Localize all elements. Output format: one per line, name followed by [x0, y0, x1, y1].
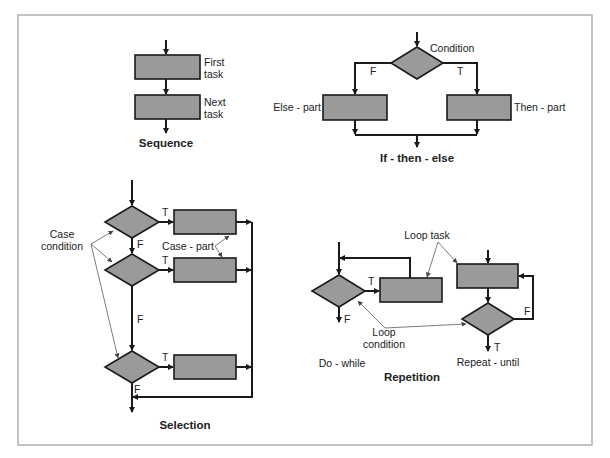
condition-label: Condition: [430, 42, 475, 54]
repeat-until-false-label: F: [524, 305, 530, 317]
do-while-label: Do - while: [319, 357, 366, 369]
first-task-label-2: task: [204, 68, 224, 80]
case-diamond-3: [105, 351, 159, 383]
then-part-box: [447, 95, 511, 120]
else-part-box: [323, 95, 387, 120]
do-while-condition-diamond: [312, 275, 365, 307]
case-part-pointer-2: [215, 246, 222, 257]
loop-condition-pointer-1: [358, 301, 385, 328]
if-then-else-diagram: Condition F T Else - part Then - part If…: [273, 32, 565, 164]
repeat-until-loop-task-box: [457, 264, 518, 288]
do-while-false-label: F: [344, 313, 350, 325]
do-while-loop-back: [340, 258, 410, 278]
else-part-label: Else - part: [273, 101, 321, 113]
do-while-loop-task-box: [380, 278, 442, 302]
loop-condition-pointer-2: [385, 324, 466, 328]
case-part-label: Case - part: [162, 240, 214, 252]
case-part-box-2: [174, 258, 236, 282]
case-condition-label-2: condition: [41, 240, 83, 252]
case-condition-label-1: Case: [50, 228, 75, 240]
case-1-true-label: T: [162, 206, 169, 218]
case-diamond-1: [105, 206, 159, 238]
do-while-true-label: T: [368, 275, 375, 287]
repetition-diagram: T F Do - while F T Repeat - until Loop t…: [312, 229, 533, 383]
case-2-true-label: T: [162, 254, 169, 266]
then-part-label: Then - part: [514, 101, 565, 113]
case-2-false-label: F: [137, 313, 143, 325]
case-3-true-label: T: [162, 351, 169, 363]
loop-task-pointer-2: [438, 242, 457, 263]
case-condition-pointer-1: [91, 231, 113, 244]
control-structures-diagram: First task Next task Sequence Condition …: [0, 0, 610, 458]
false-label: F: [370, 65, 376, 77]
true-label: T: [457, 65, 464, 77]
loop-task-label: Loop task: [404, 229, 450, 241]
selection-diagram: T F T F T F Case condition Case - part S…: [41, 180, 252, 431]
case-part-box-1: [174, 210, 236, 234]
case-3-false-label: F: [134, 383, 140, 395]
next-task-box: [135, 95, 200, 119]
case-condition-pointer-3: [91, 244, 118, 358]
if-then-else-title: If - then - else: [380, 152, 454, 164]
selection-title: Selection: [159, 419, 210, 431]
first-task-box: [135, 55, 200, 79]
case-part-pointer-1: [215, 236, 229, 246]
case-1-false-label: F: [137, 238, 143, 250]
next-task-label-1: Next: [204, 96, 226, 108]
diagram-frame: [18, 15, 592, 445]
loop-task-pointer-1: [427, 242, 438, 277]
case-diamond-2: [105, 254, 159, 286]
repetition-title: Repetition: [384, 371, 440, 383]
case-condition-pointer-2: [91, 244, 112, 262]
sequence-title: Sequence: [139, 137, 193, 149]
case-part-box-3: [174, 355, 236, 379]
sequence-diagram: First task Next task Sequence: [135, 40, 226, 149]
repeat-until-true-label: T: [494, 341, 501, 353]
next-task-label-2: task: [204, 108, 224, 120]
repeat-until-label: Repeat - until: [457, 356, 519, 368]
loop-condition-label-2: condition: [363, 338, 405, 350]
first-task-label-1: First: [204, 56, 224, 68]
repeat-until-condition-diamond: [462, 303, 514, 335]
